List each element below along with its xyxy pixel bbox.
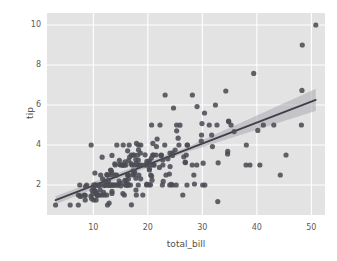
x-axis-label: total_bill [156, 239, 216, 249]
x-tick-label: 30 [187, 223, 217, 232]
plot-area [47, 13, 325, 215]
y-tick-label: 8 [13, 60, 41, 69]
y-tick-label: 2 [13, 180, 41, 189]
y-tick-label: 10 [13, 20, 41, 29]
x-tick-label: 20 [133, 223, 163, 232]
x-tick-label: 10 [78, 223, 108, 232]
figure-canvas: 246810 1020304050 total_bill tip [0, 0, 337, 261]
x-tick-label: 50 [296, 223, 326, 232]
x-tick-label: 40 [242, 223, 272, 232]
y-axis-label: tip [25, 83, 35, 143]
